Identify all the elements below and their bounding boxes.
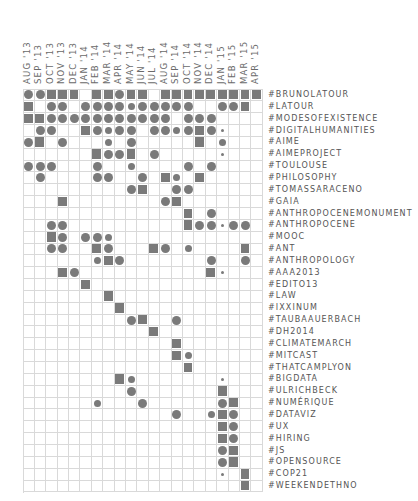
matrix-cell	[217, 196, 229, 208]
matrix-cell	[103, 267, 115, 279]
matrix-cell	[57, 433, 69, 445]
row-label: #LATOUR	[268, 101, 315, 113]
matrix-cell	[80, 385, 92, 397]
row-label: #MOOC	[268, 231, 305, 243]
square-mark	[127, 149, 136, 158]
matrix-cell	[80, 279, 92, 291]
small-circle-mark	[219, 139, 226, 146]
column-label: APR '15	[251, 6, 262, 84]
matrix-cell	[103, 302, 115, 314]
matrix-cell	[183, 208, 195, 220]
matrix-cell	[69, 136, 81, 148]
matrix-cell	[171, 468, 183, 480]
matrix-cell	[194, 302, 206, 314]
matrix-cell	[137, 326, 149, 338]
matrix-cell	[91, 290, 103, 302]
matrix-cell	[103, 456, 115, 468]
matrix-cell	[137, 350, 149, 362]
matrix-cell	[160, 314, 172, 326]
matrix-cell	[69, 148, 81, 160]
matrix-cell	[148, 279, 160, 291]
small-circle-mark	[128, 103, 135, 110]
matrix-cell	[183, 385, 195, 397]
large-circle-mark	[47, 244, 56, 253]
matrix-cell	[205, 362, 217, 374]
large-circle-mark	[150, 114, 159, 123]
matrix-cell	[57, 196, 69, 208]
large-circle-mark	[127, 387, 136, 396]
matrix-cell	[57, 208, 69, 220]
matrix-cell	[183, 101, 195, 113]
row-label: #AIME	[268, 136, 300, 148]
matrix-cell	[217, 362, 229, 374]
matrix-cell	[183, 409, 195, 421]
matrix-cell	[217, 397, 229, 409]
matrix-cell	[114, 290, 126, 302]
matrix-cell	[217, 125, 229, 137]
matrix-cell	[126, 314, 138, 326]
matrix-cell	[69, 468, 81, 480]
matrix-cell	[114, 480, 126, 492]
matrix-cell	[23, 89, 35, 101]
matrix-cell	[114, 350, 126, 362]
column-label-text: JAN '14	[79, 45, 89, 84]
matrix-cell	[217, 373, 229, 385]
matrix-cell	[114, 231, 126, 243]
square-mark	[184, 90, 193, 99]
matrix-cell	[228, 267, 240, 279]
matrix-cell	[160, 409, 172, 421]
matrix-cell	[160, 208, 172, 220]
matrix-cell	[137, 172, 149, 184]
matrix-cell	[160, 350, 172, 362]
large-circle-mark	[150, 126, 159, 135]
matrix-cell	[205, 326, 217, 338]
matrix-cell	[46, 160, 58, 172]
matrix-cell	[46, 326, 58, 338]
matrix-cell	[137, 433, 149, 445]
matrix-cell	[126, 184, 138, 196]
matrix-cell	[217, 326, 229, 338]
matrix-cell	[103, 255, 115, 267]
matrix-cell	[194, 89, 206, 101]
matrix-cell	[183, 456, 195, 468]
matrix-cell	[217, 456, 229, 468]
matrix-cell	[57, 350, 69, 362]
matrix-cell	[103, 279, 115, 291]
matrix-cell	[34, 290, 46, 302]
column-label: DEC '13	[69, 6, 80, 84]
matrix-cell	[91, 468, 103, 480]
matrix-cell	[103, 231, 115, 243]
matrix-cell	[205, 219, 217, 231]
matrix-cell	[205, 397, 217, 409]
matrix-cell	[34, 279, 46, 291]
matrix-cell	[240, 397, 252, 409]
matrix-cell	[80, 445, 92, 457]
matrix-cell	[228, 136, 240, 148]
large-circle-mark	[138, 102, 147, 111]
matrix-cell	[69, 362, 81, 374]
matrix-cell	[46, 433, 58, 445]
large-circle-mark	[161, 102, 170, 111]
matrix-cell	[160, 397, 172, 409]
matrix-cell	[217, 314, 229, 326]
matrix-cell	[240, 326, 252, 338]
matrix-cell	[103, 480, 115, 492]
matrix-cell	[194, 480, 206, 492]
dot-mark	[221, 153, 224, 156]
matrix-cell	[57, 480, 69, 492]
column-label-text: FEB '14	[90, 44, 100, 84]
matrix-cell	[171, 445, 183, 457]
matrix-cell	[228, 397, 240, 409]
matrix-cell	[137, 480, 149, 492]
matrix-cell	[251, 89, 263, 101]
matrix-cell	[23, 421, 35, 433]
matrix-cell	[183, 279, 195, 291]
matrix-cell	[148, 160, 160, 172]
matrix-cell	[126, 89, 138, 101]
matrix-cell	[80, 362, 92, 374]
matrix-cell	[126, 125, 138, 137]
square-mark	[218, 386, 227, 395]
matrix-cell	[103, 184, 115, 196]
matrix-cell	[69, 397, 81, 409]
matrix-cell	[228, 421, 240, 433]
